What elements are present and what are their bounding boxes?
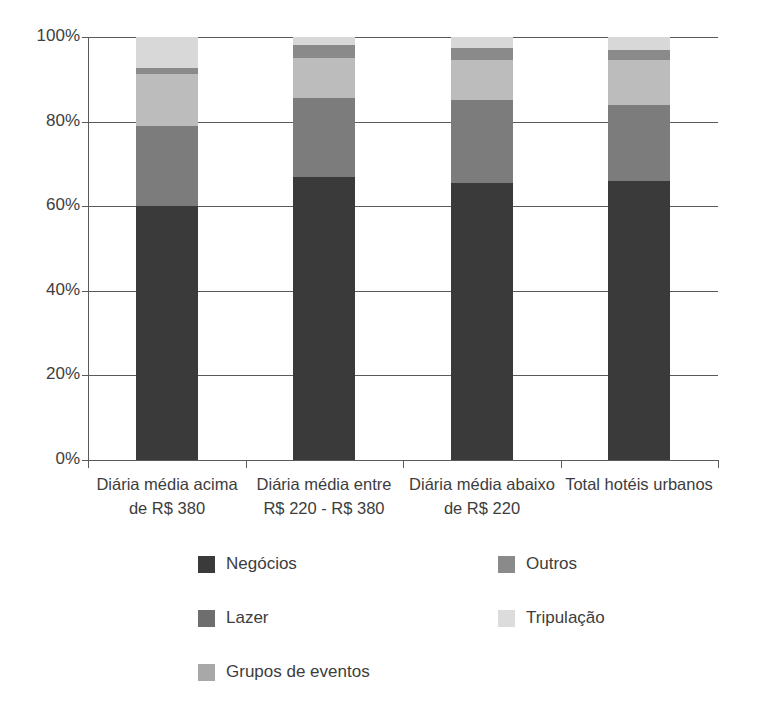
bar-segment-outros[interactable] [136,74,198,126]
legend-item-grupos-de-eventos[interactable]: Grupos de eventos [198,662,370,682]
bar-segment-lazer[interactable] [293,98,355,176]
category-label: Total hotéis urbanos [550,472,728,496]
y-axis-tick-label: 100% [0,26,80,46]
y-axis-tick-label: 60% [0,195,80,215]
chart-page: 0%20%40%60%80%100% Diária média acimade … [0,0,757,711]
x-tick-mark [403,460,404,468]
category-label-line: de R$ 220 [393,496,571,520]
bar-column[interactable] [136,37,198,460]
bar-segment-lazer[interactable] [608,105,670,181]
y-axis-tick-label: 20% [0,364,80,384]
y-tick-text: 100% [8,26,80,46]
bar-segment-lazer[interactable] [136,126,198,206]
bar-column[interactable] [451,37,513,460]
legend-label: Negócios [226,554,297,574]
y-tick-text: 40% [8,280,80,300]
legend-swatch-icon [498,610,515,627]
bar-segment-negócios[interactable] [608,181,670,460]
category-label: Diária média entreR$ 220 - R$ 380 [235,472,413,520]
legend-label: Grupos de eventos [226,662,370,682]
x-tick-mark [88,460,89,468]
bar-segment-tripulação[interactable] [293,37,355,45]
x-tick-mark [718,460,719,468]
x-tick-mark [246,460,247,468]
bar-segment-outros[interactable] [608,60,670,104]
x-tick-mark [561,460,562,468]
bar-segment-tripulação[interactable] [608,37,670,50]
category-label-line: Diária média entre [235,472,413,496]
legend-label: Tripulação [526,608,605,628]
y-axis-tick-label: 0% [0,449,80,469]
bar-segment-negócios[interactable] [136,206,198,460]
plot-area [88,37,718,460]
bar-column[interactable] [293,37,355,460]
legend-item-tripulação[interactable]: Tripulação [498,608,605,628]
bar-segment-negócios[interactable] [451,183,513,460]
chart-legend: NegóciosOutrosLazerTripulaçãoGrupos de e… [0,546,757,706]
category-label: Diária média acimade R$ 380 [78,472,256,520]
bar-segment-outros[interactable] [293,58,355,98]
bar-segment-grupos-de-eventos[interactable] [608,50,670,61]
y-tick-text: 60% [8,195,80,215]
legend-swatch-icon [198,664,215,681]
y-tick-text: 80% [8,111,80,131]
bar-segment-tripulação[interactable] [136,37,198,68]
y-axis-tick-label: 80% [0,111,80,131]
bar-segment-grupos-de-eventos[interactable] [293,45,355,58]
category-label-line: de R$ 380 [78,496,256,520]
legend-label: Outros [526,554,577,574]
legend-swatch-icon [498,556,515,573]
legend-swatch-icon [198,610,215,627]
legend-item-lazer[interactable]: Lazer [198,608,269,628]
bar-segment-negócios[interactable] [293,177,355,460]
category-label: Diária média abaixode R$ 220 [393,472,571,520]
category-label-line: Diária média acima [78,472,256,496]
bar-segment-outros[interactable] [451,60,513,100]
bar-segment-grupos-de-eventos[interactable] [451,48,513,61]
y-tick-text: 20% [8,364,80,384]
bar-segment-lazer[interactable] [451,100,513,182]
legend-swatch-icon [198,556,215,573]
legend-label: Lazer [226,608,269,628]
y-tick-text: 0% [8,449,80,469]
chart-canvas: 0%20%40%60%80%100% Diária média acimade … [0,0,757,540]
legend-item-negócios[interactable]: Negócios [198,554,297,574]
category-label-line: Total hotéis urbanos [550,472,728,496]
y-axis-tick-label: 40% [0,280,80,300]
category-label-line: Diária média abaixo [393,472,571,496]
category-label-line: R$ 220 - R$ 380 [235,496,413,520]
legend-item-outros[interactable]: Outros [498,554,577,574]
bar-segment-tripulação[interactable] [451,37,513,48]
bar-column[interactable] [608,37,670,460]
